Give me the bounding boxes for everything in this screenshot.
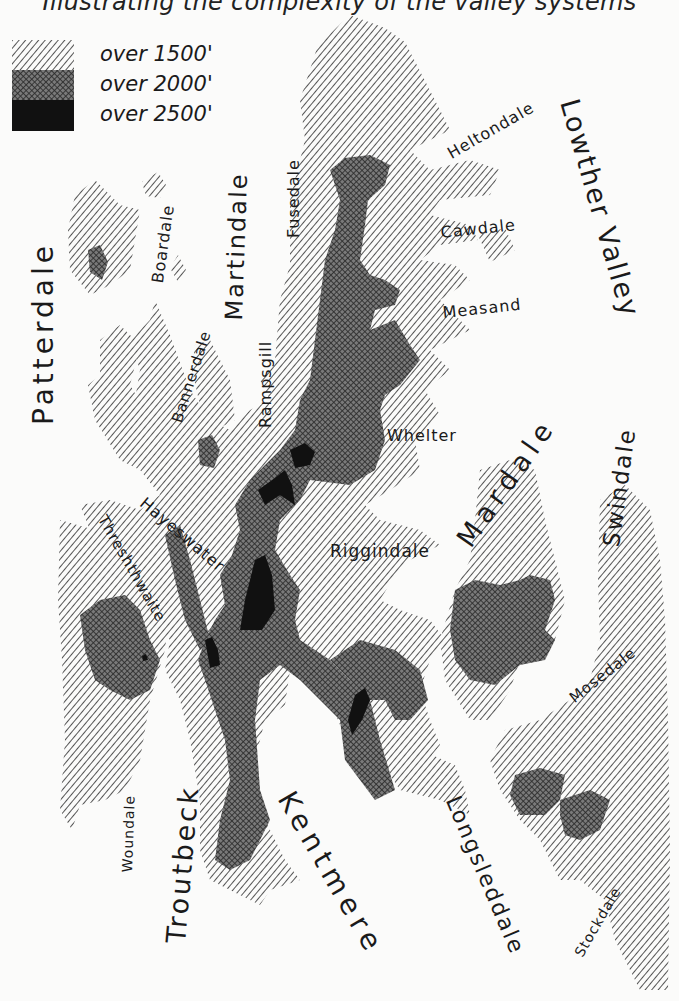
legend-label: over 1500' — [100, 42, 213, 66]
label-patterdale: Patterdale — [30, 242, 58, 425]
legend-label: over 2000' — [100, 72, 213, 96]
solid-swatch-icon — [12, 100, 74, 131]
map-subtitle: Illustrating the complexity of the valle… — [0, 0, 679, 16]
label-fusedale: Fusedale — [286, 159, 302, 238]
hatch-swatch-icon — [12, 40, 74, 71]
relief-map: Illustrating the complexity of the valle… — [0, 0, 679, 1001]
label-whelter: Whelter — [387, 428, 457, 444]
legend-label: over 2500' — [100, 102, 213, 126]
label-riggindale: Riggindale — [330, 543, 430, 560]
crosshatch-swatch-icon — [12, 70, 74, 101]
label-woundale: Woundale — [120, 795, 137, 873]
label-martindale: Martindale — [222, 172, 251, 321]
label-rampsgill: Rampsgill — [258, 341, 274, 428]
